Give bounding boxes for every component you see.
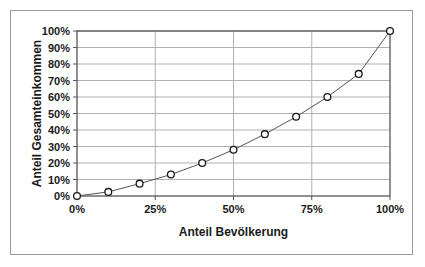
chart-figure: 100% 90% 80% 70% 60% 50% 40% 30% 20% 10%… xyxy=(0,0,425,267)
x-tick-label-0: 0% xyxy=(69,203,85,215)
x-tick-label-75: 75% xyxy=(301,203,323,215)
x-axis-tick-labels: 0% 25% 50% 75% 100% xyxy=(69,203,404,215)
y-tick-label-10: 10% xyxy=(48,174,70,186)
y-tick-label-20: 20% xyxy=(48,157,70,169)
data-point-marker xyxy=(199,160,206,167)
data-point-marker xyxy=(230,146,237,153)
y-tick-label-0: 0% xyxy=(54,190,70,202)
y-tick-label-80: 80% xyxy=(48,58,70,70)
data-point-marker xyxy=(168,171,175,178)
x-axis-title: Anteil Bevölkerung xyxy=(179,225,288,239)
y-tick-label-50: 50% xyxy=(48,108,70,120)
y-axis-tick-labels: 100% 90% 80% 70% 60% 50% 40% 30% 20% 10%… xyxy=(42,25,70,202)
y-tick-label-30: 30% xyxy=(48,141,70,153)
data-point-marker xyxy=(293,113,300,120)
y-tick-label-70: 70% xyxy=(48,75,70,87)
data-point-marker xyxy=(324,94,331,101)
x-tick-label-25: 25% xyxy=(144,203,166,215)
data-point-marker xyxy=(136,180,143,187)
data-point-marker xyxy=(261,131,268,138)
y-tick-label-90: 90% xyxy=(48,42,70,54)
y-tick-label-40: 40% xyxy=(48,124,70,136)
x-tick-label-50: 50% xyxy=(222,203,244,215)
x-tick-label-100: 100% xyxy=(376,203,404,215)
data-point-marker xyxy=(105,188,112,195)
data-point-marker xyxy=(355,71,362,78)
data-point-marker xyxy=(387,28,394,35)
data-point-marker xyxy=(74,193,81,200)
lorenz-curve-chart: 100% 90% 80% 70% 60% 50% 40% 30% 20% 10%… xyxy=(0,0,425,267)
y-axis-title: Anteil Gesamteinkommen xyxy=(30,40,44,187)
y-tick-label-100: 100% xyxy=(42,25,70,37)
y-tick-label-60: 60% xyxy=(48,91,70,103)
